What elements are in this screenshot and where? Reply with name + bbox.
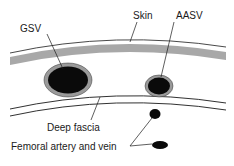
skin-layer bbox=[10, 40, 226, 65]
femoral-artery-leader bbox=[130, 118, 152, 146]
aasv-label: AASV bbox=[176, 10, 203, 21]
deep-fascia bbox=[10, 96, 226, 116]
anatomy-diagram: GSV Skin AASV Deep fascia Femoral artery… bbox=[0, 0, 234, 166]
skin-label: Skin bbox=[133, 10, 152, 21]
skin-leader bbox=[130, 22, 137, 42]
femoral-artery bbox=[150, 109, 161, 119]
gsv-vessel bbox=[44, 63, 92, 97]
femoral-vein bbox=[152, 141, 168, 149]
aasv-vessel bbox=[145, 75, 173, 97]
deep-fascia-label: Deep fascia bbox=[47, 122, 100, 133]
deep-fascia-line-lower bbox=[10, 103, 226, 116]
gsv-label: GSV bbox=[20, 23, 41, 34]
femoral-vein-leader bbox=[130, 144, 152, 146]
deep-fascia-leader bbox=[91, 97, 100, 120]
deep-fascia-line-upper bbox=[10, 96, 226, 109]
femoral-label: Femoral artery and vein bbox=[11, 141, 117, 152]
